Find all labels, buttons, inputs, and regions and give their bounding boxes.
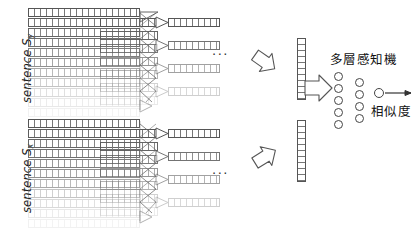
mlp-node bbox=[334, 96, 343, 105]
hidden-row bbox=[100, 44, 158, 53]
input-row bbox=[28, 119, 140, 128]
hidden-row bbox=[100, 194, 158, 203]
output-row bbox=[168, 18, 220, 27]
sentence-vector-y bbox=[297, 38, 306, 100]
mlp-output-node bbox=[374, 88, 384, 98]
hidden-row bbox=[100, 181, 158, 190]
output-row bbox=[168, 198, 220, 207]
sentence-vector-x bbox=[297, 120, 306, 182]
input-row bbox=[28, 108, 140, 117]
mlp-node bbox=[334, 108, 343, 117]
hidden-row bbox=[100, 31, 158, 40]
block-arrow-icon bbox=[249, 46, 281, 78]
mlp-node bbox=[334, 72, 343, 81]
input-row bbox=[28, 219, 140, 228]
output-row bbox=[168, 152, 220, 161]
output-row bbox=[168, 129, 220, 138]
hidden-row bbox=[100, 207, 158, 216]
mlp-label: 多層感知機 bbox=[330, 49, 397, 68]
hidden-row bbox=[100, 83, 158, 92]
diagram-canvas: sentence Sy ... sentence Sx bbox=[0, 0, 419, 238]
mlp-node bbox=[355, 90, 364, 99]
output-row bbox=[168, 64, 220, 73]
block-arrow-icon bbox=[249, 141, 281, 172]
hidden-row bbox=[100, 18, 158, 27]
block-arrow-icon bbox=[305, 75, 332, 101]
hidden-row bbox=[100, 155, 158, 164]
hidden-row bbox=[100, 57, 158, 66]
hidden-row bbox=[100, 168, 158, 177]
ellipsis-bottom: ... bbox=[212, 163, 229, 176]
mlp-node bbox=[355, 78, 364, 87]
mlp-node bbox=[355, 114, 364, 123]
similarity-label: 相似度 bbox=[371, 101, 411, 120]
output-row bbox=[168, 87, 220, 96]
mlp-node bbox=[334, 84, 343, 93]
mlp-node bbox=[334, 120, 343, 129]
hidden-row bbox=[100, 96, 158, 105]
hidden-row bbox=[100, 142, 158, 151]
line-arrow-icon bbox=[385, 91, 411, 96]
input-row bbox=[28, 8, 140, 17]
hidden-row bbox=[100, 70, 158, 79]
mlp-node bbox=[355, 102, 364, 111]
hidden-row bbox=[100, 129, 158, 138]
ellipsis-top: ... bbox=[212, 44, 229, 57]
